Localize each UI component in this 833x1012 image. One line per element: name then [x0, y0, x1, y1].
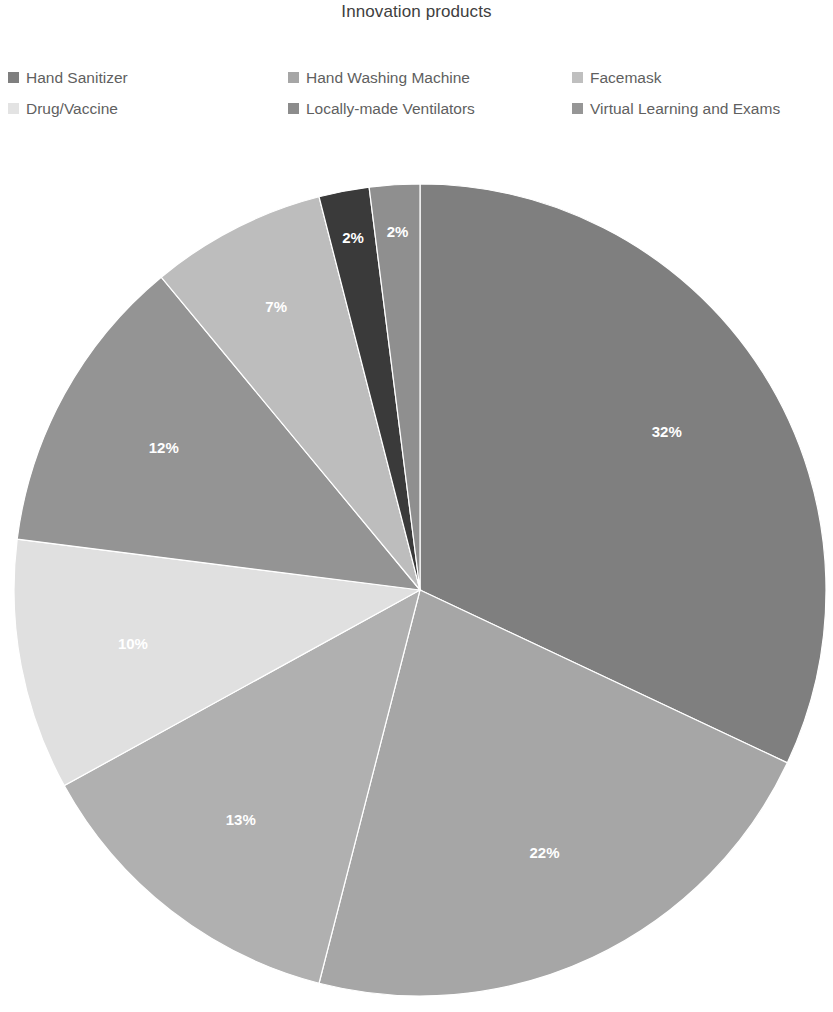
pie-slice-label: 2%	[342, 229, 364, 246]
pie-chart: 32%22%13%10%12%7%2%2%	[0, 0, 833, 1012]
pie-slice-label: 12%	[149, 439, 179, 456]
pie-slice-label: 13%	[226, 811, 256, 828]
pie-slice-label: 2%	[387, 223, 409, 240]
pie-slice-label: 22%	[529, 844, 559, 861]
pie-chart-canvas: 32%22%13%10%12%7%2%2%	[0, 0, 833, 1012]
pie-slice-label: 10%	[118, 635, 148, 652]
pie-slice-label: 32%	[652, 423, 682, 440]
pie-slice-label: 7%	[265, 298, 287, 315]
pie-slice-group	[14, 184, 826, 996]
